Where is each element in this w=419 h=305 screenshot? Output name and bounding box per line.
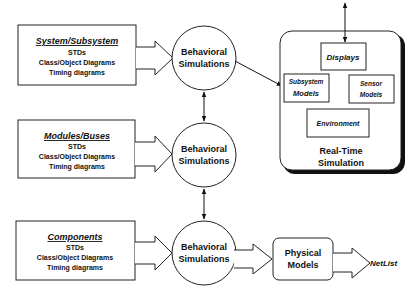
behavioral-simulation-circle-3: Behavioral Simulations: [172, 221, 236, 285]
block-arrow-icon: [135, 136, 172, 172]
source-box-title: Components: [48, 232, 103, 242]
source-box-components: Components STDs Class/Object Diagrams Ti…: [16, 221, 135, 280]
arrow-icon: [235, 61, 282, 86]
behavioral-simulation-circle-2: Behavioral Simulations: [172, 123, 236, 187]
circle-label: Behavioral: [181, 144, 227, 154]
environment-label: Environment: [317, 120, 360, 127]
physical-models-label: Models: [287, 260, 318, 270]
box-line: STDs: [68, 143, 86, 150]
block-arrow-icon: [135, 236, 172, 270]
netlist-label: NetList: [370, 259, 397, 268]
block-arrow-icon: [136, 41, 173, 75]
box-line: Timing diagrams: [49, 163, 105, 171]
real-time-title: Real-Time: [320, 146, 363, 156]
circle-label: Simulations: [178, 254, 229, 264]
diagram-canvas: System/Subsystem STDs Class/Object Diagr…: [0, 0, 419, 305]
circle-label: Behavioral: [181, 242, 227, 252]
circle-label: Simulations: [178, 156, 229, 166]
source-box-title: System/Subsystem: [36, 36, 119, 46]
real-time-title: Simulation: [318, 158, 364, 168]
box-line: STDs: [66, 244, 84, 251]
box-line: Timing diagrams: [49, 69, 105, 77]
displays-label: Displays: [327, 53, 360, 62]
circle-label: Behavioral: [181, 47, 227, 57]
box-line: Class/Object Diagrams: [37, 254, 113, 262]
box-line: STDs: [68, 49, 86, 56]
subsystem-models-label: Subsystem: [289, 78, 324, 86]
real-time-simulation-box: Displays Subsystem Models Sensor Models …: [280, 31, 405, 174]
source-box-system-subsystem: System/Subsystem STDs Class/Object Diagr…: [18, 25, 136, 85]
subsystem-models-label: Models: [293, 89, 319, 98]
box-line: Class/Object Diagrams: [39, 59, 115, 67]
circle-label: Simulations: [178, 59, 229, 69]
physical-models-label: Physical: [285, 248, 322, 258]
behavioral-simulation-circle-1: Behavioral Simulations: [172, 26, 236, 90]
sensor-models-label: Sensor: [360, 80, 383, 87]
box-line: Timing diagrams: [47, 264, 103, 272]
block-arrow-icon: [234, 244, 272, 274]
source-box-title: Modules/Buses: [44, 131, 110, 141]
source-box-modules-buses: Modules/Buses STDs Class/Object Diagrams…: [18, 120, 135, 178]
sensor-models-label: Models: [360, 91, 383, 98]
block-arrow-icon: [333, 248, 370, 278]
box-line: Class/Object Diagrams: [39, 153, 115, 161]
physical-models-box: Physical Models: [273, 238, 333, 280]
